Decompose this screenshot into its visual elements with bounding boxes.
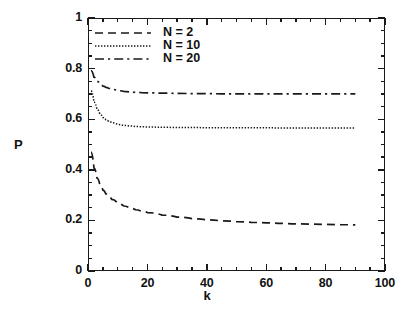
y-axis-tick-label: 1 <box>32 10 82 24</box>
y-axis-tick-label: 0.2 <box>32 212 82 226</box>
series-line-dotted <box>91 91 355 128</box>
figure-chart: k P N = 2 N = 10 N = 20 00.20.40.60.8102… <box>0 0 414 310</box>
series-line-dashed <box>91 152 355 225</box>
series-line-dashdot <box>91 71 355 94</box>
x-axis-title: k <box>0 288 414 303</box>
legend-label: N = 20 <box>163 52 200 65</box>
y-axis-tick-label: 0.6 <box>32 111 82 125</box>
y-axis-tick-label: 0.4 <box>32 162 82 176</box>
legend-item: N = 20 <box>95 52 200 65</box>
x-axis-tick-label: 40 <box>182 276 232 290</box>
x-axis-tick-label: 80 <box>301 276 351 290</box>
y-axis-tick-label: 0.8 <box>32 61 82 75</box>
x-axis-tick-label: 100 <box>360 276 410 290</box>
x-axis-tick-label: 20 <box>122 276 172 290</box>
legend: N = 2 N = 10 N = 20 <box>95 26 200 65</box>
y-axis-tick-label: 0 <box>32 263 82 277</box>
legend-line-sample-dotted <box>95 41 151 51</box>
legend-line-sample-dashdot <box>95 54 151 64</box>
legend-line-sample-dashed <box>95 28 151 38</box>
x-axis-tick-label: 60 <box>241 276 291 290</box>
y-axis-title: P <box>14 137 23 152</box>
x-axis-tick-label: 0 <box>63 276 113 290</box>
